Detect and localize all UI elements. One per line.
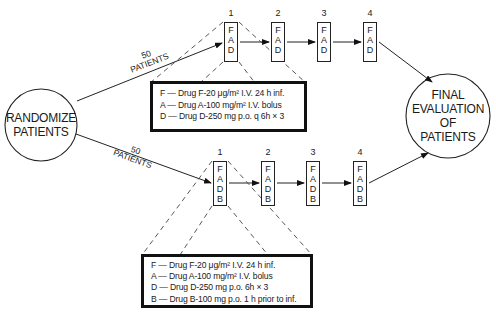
arm-a-cycle-1-number: 1 bbox=[223, 8, 239, 18]
randomize-patients-node: RANDOMIZE PATIENTS bbox=[5, 111, 77, 139]
arm-b-cycle-3-number: 3 bbox=[305, 147, 321, 157]
arm-a-legend-f: F — Drug F-20 μg/m² I.V. 24 h inf. bbox=[160, 88, 304, 100]
randomize-label-line1: RANDOMIZE bbox=[5, 111, 77, 125]
arm-b-cycle-4-number: 4 bbox=[352, 147, 368, 157]
arm-a-legend-a: A — Drug A-100 mg/m² I.V. bolus bbox=[160, 100, 304, 112]
arm-b-legend-d: D — Drug D-250 mg p.o. 6h × 3 bbox=[151, 282, 310, 293]
arm-a-legend-d: D — Drug D-250 mg p.o. q 6h × 3 bbox=[160, 111, 304, 123]
arm-b-cycle-1-box: FADB bbox=[213, 161, 227, 206]
arm-a-cycle-1-box: FAD bbox=[224, 22, 238, 62]
arm-a-cycle-3-number: 3 bbox=[316, 8, 332, 18]
final-label-line3: OF bbox=[406, 116, 490, 130]
arm-b-cycle-3-box: FADB bbox=[306, 161, 320, 206]
arm-b-legend-b: B — Drug B-100 mg p.o. 1 h prior to inf. bbox=[151, 294, 310, 305]
arm-a-cycle-2-box: FAD bbox=[271, 22, 285, 62]
final-label-line4: PATIENTS bbox=[406, 130, 490, 144]
arm-b-legend-a: A — Drug A-100 mg/m² I.V. bolus bbox=[151, 271, 310, 282]
trial-flow-diagram: RANDOMIZE PATIENTS FINAL EVALUATION OF P… bbox=[0, 0, 496, 315]
arm-a-cycle-2-number: 2 bbox=[270, 8, 286, 18]
randomize-label-line2: PATIENTS bbox=[5, 125, 77, 139]
arm-b-drug-legend: F — Drug F-20 μg/m² I.V. 24 h inf. A — D… bbox=[141, 254, 313, 308]
arm-b-cycle-4-box: FADB bbox=[353, 161, 367, 206]
arm-a-cycle-4-box: FAD bbox=[363, 22, 377, 62]
arm-b-legend-f: F — Drug F-20 μg/m² I.V. 24 h inf. bbox=[151, 260, 310, 271]
arm-b-cycle-2-number: 2 bbox=[260, 147, 276, 157]
final-label-line1: FINAL bbox=[406, 88, 490, 102]
arm-b-cycle-1-number: 1 bbox=[212, 147, 228, 157]
arm-a-cycle-4-number: 4 bbox=[362, 8, 378, 18]
arm-a-drug-legend: F — Drug F-20 μg/m² I.V. 24 h inf. A — D… bbox=[150, 81, 307, 132]
final-evaluation-node: FINAL EVALUATION OF PATIENTS bbox=[406, 88, 490, 144]
arm-a-cycle-3-box: FAD bbox=[317, 22, 331, 62]
final-label-line2: EVALUATION bbox=[406, 102, 490, 116]
arm-b-cycle-2-box: FADB bbox=[261, 161, 275, 206]
